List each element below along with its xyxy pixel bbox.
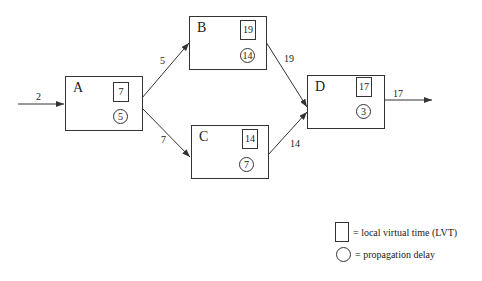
legend-delay: = propagation delay [336,247,435,262]
legend-lvt-text: = local virtual time (LVT) [353,227,457,238]
node-b: B 19 14 [189,16,267,70]
edge-label-c-d: 14 [290,138,300,149]
node-b-lvt: 19 [240,20,256,40]
square-icon [335,222,349,242]
node-a-delay: 5 [113,109,128,124]
edge-a-c [142,108,190,157]
node-d-lvt: 17 [356,77,372,97]
node-b-delay: 14 [240,48,255,63]
edge-label-d-output: 17 [393,88,403,99]
edge-label-b-d: 19 [284,53,294,64]
node-a: A 7 5 [65,76,143,131]
node-d-label: D [315,79,325,95]
node-c: C 14 7 [191,125,269,179]
edge-label-a-c: 7 [161,134,166,145]
edge-c-d [268,112,307,155]
edge-b-d [266,42,307,107]
legend-delay-text: = propagation delay [355,249,435,260]
node-a-lvt: 7 [113,82,129,102]
edge-label-input-a: 2 [36,91,41,102]
node-c-lvt: 14 [242,129,258,149]
node-c-delay: 7 [239,157,254,172]
node-c-label: C [199,129,208,145]
edge-a-b [142,43,189,98]
node-d: D 17 3 [307,75,385,129]
node-d-delay: 3 [356,104,371,119]
edge-label-a-b: 5 [160,55,165,66]
node-b-label: B [197,20,206,36]
legend-lvt: = local virtual time (LVT) [335,222,457,242]
circle-icon [336,247,351,262]
node-a-label: A [73,80,83,96]
